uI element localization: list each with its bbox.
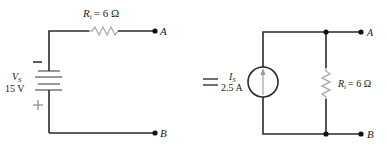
terminal-a-right	[358, 29, 363, 34]
current-arrow-icon	[261, 68, 266, 95]
equals-sign-icon	[203, 79, 218, 85]
right-circuit: A B IS 2.5 A Ri= 6 Ω	[221, 27, 374, 140]
right-shunt-resistor	[322, 68, 330, 99]
terminal-b-left	[152, 130, 157, 135]
circuit-diagram: Ri= 6 Ω A B VS 15 V	[0, 0, 387, 145]
junction-top	[323, 29, 328, 34]
terminal-b-left-label: B	[160, 127, 167, 139]
current-source-value: 2.5 A	[221, 82, 243, 93]
plus-sign-icon	[33, 100, 43, 110]
terminal-b-right	[358, 131, 363, 136]
right-top-wire	[263, 32, 361, 67]
terminal-a-left	[152, 28, 157, 33]
junction-bottom	[323, 131, 328, 136]
terminal-b-right-label: B	[367, 128, 374, 140]
right-resistor-label: Ri= 6 Ω	[337, 78, 371, 91]
left-circuit: Ri= 6 Ω A B VS 15 V	[5, 7, 167, 139]
terminal-a-left-label: A	[159, 25, 167, 37]
left-resistor-label: Ri= 6 Ω	[82, 7, 119, 21]
left-top-wire	[49, 31, 89, 62]
left-series-resistor	[89, 27, 118, 35]
right-bottom-wire	[263, 97, 361, 134]
voltage-source-value: 15 V	[5, 83, 25, 94]
terminal-a-right-label: A	[366, 27, 374, 38]
